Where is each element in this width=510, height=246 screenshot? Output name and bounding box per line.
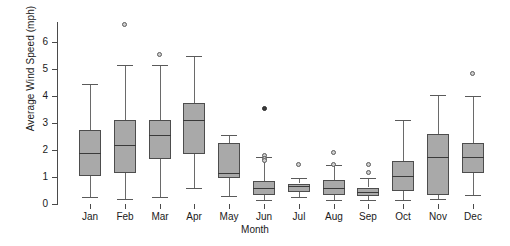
outlier-point [470,71,475,76]
whisker-upper [334,165,335,180]
x-tick-label-apr: Apr [174,212,214,222]
box-mar [149,120,171,159]
whisker-cap-upper [117,65,133,66]
box-feb [114,120,136,173]
x-tick-mark [194,204,195,209]
whisker-upper [194,56,195,103]
median-line [79,153,101,154]
whisker-lower [403,191,404,200]
x-tick-mark [125,204,126,209]
y-tick-mark [52,204,57,205]
x-tick-label-sep: Sep [348,212,388,222]
y-tick-label: 5 [28,64,48,74]
whisker-lower [194,154,195,188]
whisker-upper [90,84,91,130]
median-line [357,192,379,193]
y-tick-label: 3 [28,118,48,128]
whisker-cap-upper [360,178,376,179]
whisker-lower [125,173,126,199]
y-tick-mark [52,150,57,151]
y-tick-mark [52,69,57,70]
box-nov [427,134,449,195]
whisker-cap-upper [186,56,202,57]
whisker-cap-upper [395,120,411,121]
x-tick-mark [438,204,439,209]
whisker-cap-lower [152,197,168,198]
whisker-upper [438,95,439,134]
x-tick-mark [160,204,161,209]
box-apr [183,103,205,154]
whisker-upper [473,96,474,143]
median-line [114,145,136,146]
box-plot-chart: Average Wind Speed (mph) Month 0123456Ja… [0,0,510,246]
x-tick-label-dec: Dec [453,212,493,222]
x-tick-label-jul: Jul [279,212,319,222]
whisker-cap-lower [256,200,272,201]
whisker-cap-lower [360,200,376,201]
whisker-cap-lower [465,195,481,196]
whisker-lower [473,173,474,195]
x-tick-mark [368,204,369,209]
whisker-cap-lower [186,188,202,189]
y-tick-mark [52,42,57,43]
x-tick-label-may: May [209,212,249,222]
whisker-cap-upper [82,84,98,85]
outlier-point [296,162,301,167]
median-line [253,188,275,189]
outlier-point [122,22,127,27]
whisker-cap-upper [221,135,237,136]
whisker-cap-lower [326,200,342,201]
plot-area: 0123456JanFebMarAprMayJunJulAugSepOctNov… [0,0,510,246]
x-tick-mark [299,204,300,209]
whisker-cap-upper [465,96,481,97]
outlier-point [262,158,267,163]
outlier-point [366,170,371,175]
y-tick-label: 1 [28,172,48,182]
whisker-lower [160,159,161,197]
x-tick-label-nov: Nov [418,212,458,222]
whisker-upper [229,135,230,143]
y-tick-mark [52,177,57,178]
y-tick-label: 6 [28,37,48,47]
x-tick-mark [264,204,265,209]
y-axis-line [57,22,58,205]
median-line [323,188,345,189]
outlier-point [331,150,336,155]
outlier-point [157,52,162,57]
x-tick-label-feb: Feb [105,212,145,222]
x-tick-mark [90,204,91,209]
whisker-upper [403,120,404,161]
whisker-lower [229,178,230,196]
outlier-point [366,162,371,167]
y-tick-label: 4 [28,91,48,101]
y-tick-mark [52,123,57,124]
whisker-cap-upper [430,95,446,96]
whisker-cap-lower [221,196,237,197]
whisker-cap-lower [430,199,446,200]
whisker-cap-lower [82,197,98,198]
x-tick-label-oct: Oct [383,212,423,222]
x-tick-mark [334,204,335,209]
median-line [427,157,449,158]
x-tick-mark [403,204,404,209]
whisker-upper [368,178,369,187]
x-tick-label-jan: Jan [70,212,110,222]
median-line [462,157,484,158]
whisker-lower [90,176,91,198]
outlier-point [262,106,267,111]
x-tick-label-jun: Jun [244,212,284,222]
x-tick-mark [473,204,474,209]
box-dec [462,143,484,173]
median-line [218,173,240,174]
median-line [149,135,171,136]
median-line [288,186,310,187]
whisker-cap-lower [117,199,133,200]
whisker-cap-lower [291,197,307,198]
y-tick-label: 0 [28,199,48,209]
whisker-upper [160,65,161,120]
whisker-cap-lower [395,200,411,201]
whisker-upper [125,65,126,120]
y-tick-label: 2 [28,145,48,155]
median-line [392,176,414,177]
median-line [183,120,205,121]
